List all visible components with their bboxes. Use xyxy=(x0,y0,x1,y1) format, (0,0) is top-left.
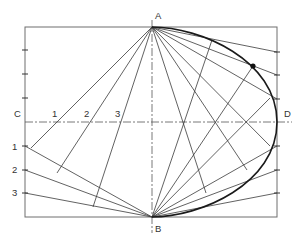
label-side-1: 1 xyxy=(12,141,17,152)
label-center-1: 1 xyxy=(52,108,57,119)
label-B: B xyxy=(155,223,161,234)
right-upper-rays-from-A xyxy=(152,27,277,99)
label-C: C xyxy=(14,108,21,119)
label-side-2: 2 xyxy=(12,164,17,175)
label-side-3: 3 xyxy=(12,187,17,198)
right-lower-rays-from-A xyxy=(152,27,270,193)
right-lower-rays-from-B xyxy=(152,146,277,217)
ellipse-construction-diagram: A B C D 1 2 3 1 2 3 xyxy=(0,0,297,240)
highlighted-construction-point xyxy=(250,63,255,68)
label-center-3: 3 xyxy=(115,108,120,119)
label-center-2: 2 xyxy=(84,108,89,119)
left-rays-from-A xyxy=(31,27,152,207)
label-D: D xyxy=(284,108,291,119)
left-rays-from-B xyxy=(25,146,152,217)
label-A: A xyxy=(155,10,162,21)
